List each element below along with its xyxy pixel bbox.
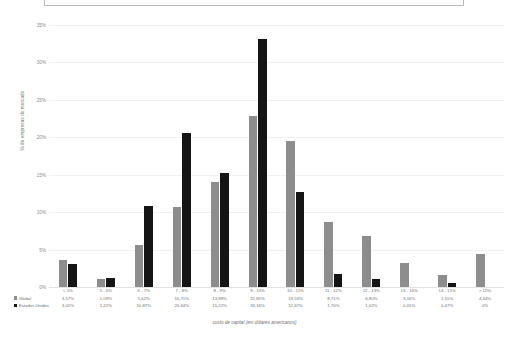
- table-cell-global: 22,85%: [239, 296, 277, 301]
- bar-global[interactable]: [438, 275, 447, 287]
- x-tick-label: 12 - 13%: [352, 288, 390, 293]
- bar-group: [125, 25, 163, 287]
- bar-global[interactable]: [286, 141, 295, 287]
- table-cell-estados-unidos: 10,87%: [125, 303, 163, 308]
- bar-global[interactable]: [173, 207, 182, 287]
- bar-estados-unidos[interactable]: [334, 274, 343, 287]
- bar-group: [390, 25, 428, 287]
- bar-global[interactable]: [97, 279, 106, 287]
- bar-group: [49, 25, 87, 287]
- table-cell-estados-unidos: 0,47%: [428, 303, 466, 308]
- bar-estados-unidos[interactable]: [144, 206, 153, 287]
- legend-swatch-global-icon: [14, 296, 17, 299]
- bar-estados-unidos[interactable]: [372, 279, 381, 287]
- bar-global[interactable]: [249, 116, 258, 287]
- x-tick-label: 8 - 9%: [201, 288, 239, 293]
- bar-global[interactable]: [135, 245, 144, 287]
- bar-estados-unidos[interactable]: [182, 133, 191, 288]
- y-axis-title: % de empresas do mercado: [20, 61, 25, 181]
- x-tick-label: 14 - 15%: [428, 288, 466, 293]
- x-tick-label: 9 - 10%: [239, 288, 277, 293]
- y-tick-label: 10%: [22, 210, 46, 215]
- table-cell-global: 5,62%: [125, 296, 163, 301]
- table-cell-estados-unidos: 12,67%: [277, 303, 315, 308]
- y-tick-label: 25%: [22, 97, 46, 102]
- table-cell-estados-unidos: 20,64%: [163, 303, 201, 308]
- x-tick-label: 6 - 7%: [125, 288, 163, 293]
- table-cell-estados-unidos: 1,02%: [352, 303, 390, 308]
- bar-group: [314, 25, 352, 287]
- bar-estados-unidos[interactable]: [296, 192, 305, 287]
- bar-group: [466, 25, 504, 287]
- table-cell-estados-unidos: 0%: [466, 303, 504, 308]
- x-tick-label: 10 - 11%: [277, 288, 315, 293]
- bar-group: [201, 25, 239, 287]
- legend-item-global[interactable]: Global: [14, 296, 31, 301]
- bar-estados-unidos[interactable]: [258, 39, 267, 287]
- table-cell-global: 1,55%: [428, 296, 466, 301]
- table-cell-global: 3,57%: [49, 296, 87, 301]
- table-cell-estados-unidos: 1,70%: [314, 303, 352, 308]
- table-cell-estados-unidos: 3,02%: [49, 303, 87, 308]
- table-cell-global: 13,98%: [201, 296, 239, 301]
- y-tick-label: 35%: [22, 23, 46, 28]
- bar-chart: % de empresas do mercado 0%5%10%15%20%25…: [0, 0, 509, 344]
- x-axis-title: custo de capital (em dólares americanos): [0, 320, 509, 325]
- table-cell-global: 8,71%: [314, 296, 352, 301]
- x-tick-label: 5 - 6%: [87, 288, 125, 293]
- bar-global[interactable]: [400, 263, 409, 287]
- bar-global[interactable]: [59, 260, 68, 287]
- legend-label-global: Global: [19, 296, 31, 301]
- table-cell-global: 6,80%: [352, 296, 390, 301]
- y-tick-label: 20%: [22, 135, 46, 140]
- table-cell-global: 1,09%: [87, 296, 125, 301]
- table-cell-estados-unidos: 33,16%: [239, 303, 277, 308]
- y-tick-label: 30%: [22, 60, 46, 65]
- bar-group: [428, 25, 466, 287]
- bar-global[interactable]: [362, 236, 371, 287]
- table-cell-estados-unidos: 0,01%: [390, 303, 428, 308]
- bar-estados-unidos[interactable]: [68, 264, 77, 287]
- bar-group: [239, 25, 277, 287]
- legend-label-estados-unidos: Estados Unidos: [19, 303, 49, 308]
- bar-estados-unidos[interactable]: [106, 278, 115, 287]
- x-tick-label: > 15%: [466, 288, 504, 293]
- x-tick-label: 13 - 14%: [390, 288, 428, 293]
- table-cell-estados-unidos: 1,22%: [87, 303, 125, 308]
- x-tick-label: < 5%: [49, 288, 87, 293]
- y-tick-label: 5%: [22, 247, 46, 252]
- bar-estados-unidos[interactable]: [220, 173, 229, 287]
- bar-group: [277, 25, 315, 287]
- bar-global[interactable]: [211, 182, 220, 287]
- bar-group: [87, 25, 125, 287]
- y-tick-label: 15%: [22, 172, 46, 177]
- x-tick-label: 7 - 8%: [163, 288, 201, 293]
- legend-item-estados-unidos[interactable]: Estados Unidos: [14, 303, 49, 308]
- table-cell-global: 19,53%: [277, 296, 315, 301]
- table-cell-global: 3,16%: [390, 296, 428, 301]
- table-cell-global: 4,44%: [466, 296, 504, 301]
- x-tick-label: 11 - 12%: [314, 288, 352, 293]
- bar-group: [163, 25, 201, 287]
- bar-group: [352, 25, 390, 287]
- legend-swatch-estados-unidos-icon: [14, 304, 17, 307]
- table-cell-estados-unidos: 15,22%: [201, 303, 239, 308]
- table-cell-global: 10,71%: [163, 296, 201, 301]
- plot-area: [49, 25, 504, 287]
- bar-global[interactable]: [324, 222, 333, 287]
- bar-global[interactable]: [476, 254, 485, 287]
